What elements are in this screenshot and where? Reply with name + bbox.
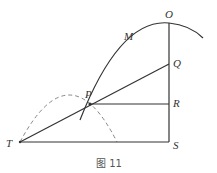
label-p: P — [84, 88, 92, 100]
point-p — [88, 102, 91, 105]
label-r: R — [172, 97, 180, 109]
point-t — [19, 141, 21, 143]
geometry-diagram: O M Q P R T S 图 11 — [0, 0, 217, 173]
line-tq — [20, 64, 169, 142]
label-t: T — [6, 137, 13, 149]
figure-caption: 图 11 — [96, 158, 122, 169]
label-s: S — [173, 139, 179, 151]
label-q: Q — [173, 57, 181, 69]
label-o: O — [165, 8, 173, 20]
label-m: M — [123, 30, 134, 42]
solid-curve-pmo — [80, 23, 203, 120]
